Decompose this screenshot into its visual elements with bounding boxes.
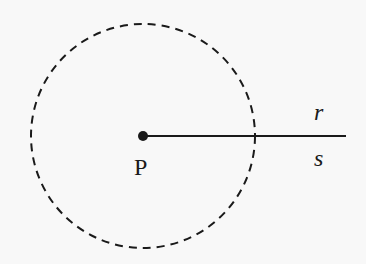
center-point	[138, 131, 148, 141]
diagram-svg	[0, 0, 366, 264]
point-label: P	[134, 155, 147, 179]
ray-lower-label: s	[314, 146, 323, 170]
ray-upper-label: r	[314, 100, 323, 124]
diagram-canvas: P r s	[0, 0, 366, 264]
